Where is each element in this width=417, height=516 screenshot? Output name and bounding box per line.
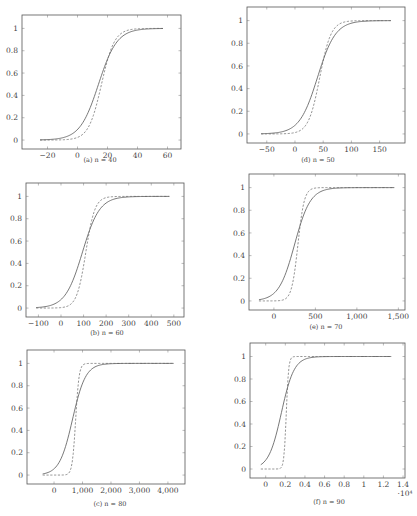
y-tick-label: 0.4 <box>231 84 243 93</box>
x-tick-label: 3,000 <box>129 486 151 495</box>
y-tick-label: 0.4 <box>11 426 23 435</box>
subplot-caption-a: (a) n = 40 <box>83 156 116 164</box>
x-tick-label: −20 <box>40 151 56 160</box>
x-tick-label: 0.6 <box>319 480 331 489</box>
x-tick-label: 150 <box>372 145 387 154</box>
x-tick-label: 1,000 <box>72 486 94 495</box>
x-axis-exponent: ·10⁴ <box>398 489 413 498</box>
x-tick-label: 1.2 <box>377 480 389 489</box>
x-tick-label: 0 <box>52 486 57 495</box>
plot-frame <box>250 343 405 478</box>
y-tick-label: 0.2 <box>234 442 246 451</box>
y-tick-label: 1 <box>240 183 245 192</box>
y-tick-label: 0.2 <box>6 113 18 122</box>
y-tick-label: 0.6 <box>233 229 245 238</box>
subplot-d: −5005010015000.20.40.60.81 <box>231 7 405 154</box>
y-tick-label: 0.2 <box>11 448 23 457</box>
x-tick-label: 0.2 <box>279 480 291 489</box>
series-solid-line <box>261 21 391 134</box>
plot-frame <box>26 183 184 317</box>
y-tick-label: 0.4 <box>233 251 245 260</box>
y-tick-label: 0.6 <box>234 397 246 406</box>
series-dashed-line <box>43 363 174 475</box>
x-tick-label: 0 <box>272 312 277 321</box>
y-tick-label: 1 <box>241 352 246 361</box>
y-tick-label: 0.6 <box>10 237 22 246</box>
series-dashed-line <box>261 21 391 134</box>
subplot-c: 01,0002,0003,0004,00000.20.40.60.81 <box>11 350 185 495</box>
series-dashed-line <box>259 188 394 301</box>
subplot-e: 05001,0001,50000.20.40.60.81 <box>233 174 409 321</box>
y-tick-label: 0.8 <box>6 46 18 55</box>
x-tick-label: 0 <box>293 145 298 154</box>
y-tick-label: 0 <box>13 136 18 145</box>
plot-frame <box>247 7 405 143</box>
x-tick-label: 500 <box>167 319 182 328</box>
x-tick-label: −50 <box>259 145 275 154</box>
y-tick-label: 0.8 <box>11 381 23 390</box>
y-tick-label: 0.8 <box>233 206 245 215</box>
x-tick-label: 1,500 <box>388 312 410 321</box>
plot-frame <box>22 15 181 149</box>
x-tick-label: 0.4 <box>299 480 311 489</box>
y-tick-label: 0.2 <box>10 281 22 290</box>
subplot-caption-f: (f) n = 90 <box>313 498 345 506</box>
y-tick-label: 0.8 <box>231 39 243 48</box>
x-tick-label: 0 <box>75 151 80 160</box>
x-tick-label: 40 <box>133 151 143 160</box>
subplot-a: −20020406000.20.40.60.81 <box>6 15 181 160</box>
x-tick-label: 50 <box>318 145 328 154</box>
series-dashed-line <box>36 196 169 308</box>
subplot-caption-e: (e) n = 70 <box>309 323 342 331</box>
subplot-caption-c: (c) n = 80 <box>94 500 127 508</box>
plot-frame <box>27 350 185 484</box>
subplot-caption-b: (b) n = 60 <box>90 329 123 337</box>
y-tick-label: 1 <box>238 16 243 25</box>
x-tick-label: 0.8 <box>338 480 350 489</box>
series-solid-line <box>40 29 163 140</box>
x-tick-label: 100 <box>76 319 91 328</box>
y-tick-label: 0 <box>17 304 22 313</box>
x-tick-label: 1.4 <box>397 480 409 489</box>
series-dashed-line <box>40 28 163 140</box>
y-tick-label: 0.4 <box>10 259 22 268</box>
subplot-b: −100010020030040050000.20.40.60.81 <box>10 183 184 328</box>
x-tick-label: 200 <box>99 319 114 328</box>
y-tick-label: 0 <box>240 297 245 306</box>
plot-frame <box>249 174 405 310</box>
x-tick-label: 4,000 <box>157 486 179 495</box>
figure-canvas: −20020406000.20.40.60.81−5005010015000.2… <box>0 0 417 516</box>
series-dashed-line <box>261 357 391 470</box>
x-tick-label: 0 <box>59 319 64 328</box>
y-tick-label: 1 <box>18 359 23 368</box>
x-tick-label: 300 <box>122 319 137 328</box>
x-tick-label: 100 <box>344 145 359 154</box>
series-solid-line <box>43 363 174 474</box>
y-tick-label: 1 <box>17 192 22 201</box>
x-tick-label: 400 <box>144 319 159 328</box>
x-tick-label: 500 <box>308 312 323 321</box>
y-tick-label: 0.2 <box>231 107 243 116</box>
y-tick-label: 0 <box>238 130 243 139</box>
y-tick-label: 1 <box>13 24 18 33</box>
series-solid-line <box>36 196 169 307</box>
y-tick-label: 0 <box>241 465 246 474</box>
x-tick-label: −100 <box>28 319 49 328</box>
y-tick-label: 0.6 <box>11 404 23 413</box>
series-solid-line <box>259 188 394 300</box>
x-tick-label: 60 <box>163 151 173 160</box>
y-tick-label: 0 <box>18 471 23 480</box>
x-tick-label: 2,000 <box>100 486 122 495</box>
y-tick-label: 0.6 <box>231 62 243 71</box>
x-tick-label: 1,000 <box>346 312 368 321</box>
y-tick-label: 0.4 <box>6 91 18 100</box>
y-tick-label: 0.8 <box>234 375 246 384</box>
y-tick-label: 0.4 <box>234 420 246 429</box>
series-solid-line <box>261 357 391 465</box>
subplot-caption-d: (d) n = 50 <box>301 156 334 164</box>
x-tick-label: 0 <box>263 480 268 489</box>
y-tick-label: 0.8 <box>10 214 22 223</box>
x-tick-label: 1 <box>361 480 366 489</box>
subplot-f: 00.20.40.60.811.21.400.20.40.60.81·10⁴ <box>234 343 412 498</box>
y-tick-label: 0.6 <box>6 69 18 78</box>
